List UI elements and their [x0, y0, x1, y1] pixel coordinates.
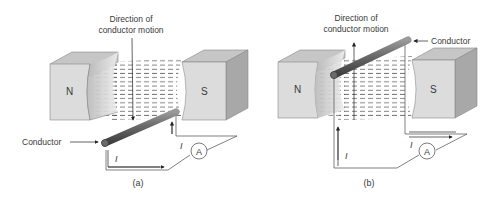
north-pole-label: N: [66, 86, 73, 97]
conductor-label: Conductor: [431, 36, 470, 46]
panel-caption: (a): [133, 178, 144, 188]
diagram-canvas: N S Direction of conductor motion Conduc…: [0, 0, 495, 199]
ammeter-label: A: [196, 147, 202, 157]
panel-b: N S Direction of conductor motion Conduc…: [278, 13, 477, 188]
current-label-1: I: [115, 154, 118, 164]
north-magnet: [50, 52, 118, 120]
ammeter-label: A: [424, 147, 430, 157]
current-label-1: I: [345, 151, 348, 161]
motion-label-line1: Direction of: [110, 14, 154, 24]
motion-label-line1: Direction of: [335, 13, 379, 23]
north-pole-label: N: [294, 84, 301, 95]
south-pole-label: S: [430, 84, 437, 95]
motion-label-line2: conductor motion: [323, 24, 388, 34]
motion-label-line2: conductor motion: [98, 25, 163, 35]
north-magnet: [278, 50, 345, 118]
panel-a: N S Direction of conductor motion Conduc…: [22, 14, 248, 188]
panel-caption: (b): [364, 178, 375, 188]
south-magnet: [412, 48, 477, 118]
current-label-2: I: [180, 141, 183, 151]
south-pole-label: S: [201, 86, 208, 97]
south-magnet: [182, 50, 248, 120]
circuit-wires: [106, 113, 237, 170]
conductor-label: Conductor: [22, 137, 61, 147]
current-label-2: I: [410, 140, 413, 150]
